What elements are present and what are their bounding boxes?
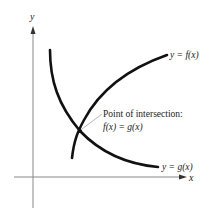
x-axis-label: x [188, 172, 194, 183]
y-axis-label: y [29, 11, 35, 22]
y-axis: y [29, 11, 36, 208]
y-axis-arrow-icon [31, 26, 36, 34]
label-f: y = f(x) [169, 50, 199, 61]
intersection-point [78, 129, 82, 133]
intersection-diagram: y x Point of intersection: f(x) = g(x) y… [0, 0, 211, 215]
x-axis-arrow-icon [179, 175, 187, 180]
annotation-title: Point of intersection: [103, 109, 183, 119]
curve-f [72, 55, 167, 158]
x-axis: x [14, 172, 194, 183]
annotation-equation: f(x) = g(x) [103, 122, 143, 133]
label-g: y = g(x) [161, 162, 193, 173]
